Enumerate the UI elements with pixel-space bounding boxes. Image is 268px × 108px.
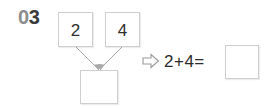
arrow-down-left-icon	[101, 47, 122, 68]
equation-expression: 2+4=	[164, 53, 205, 70]
problem-number-label: 03	[18, 6, 39, 28]
addend-box-1[interactable]: 2	[58, 12, 93, 47]
addend-box-1-value: 2	[59, 13, 92, 39]
worksheet-problem-canvas: 03 2 4 2+4=	[0, 0, 268, 108]
addend-box-2[interactable]: 4	[105, 12, 140, 47]
arrow-down-right-icon	[76, 47, 97, 68]
answer-box[interactable]	[225, 45, 259, 79]
equation-group: 2+4=	[142, 47, 205, 75]
addend-box-2-value: 4	[106, 13, 139, 39]
sum-box[interactable]	[80, 70, 118, 104]
problem-number-value: 3	[29, 6, 40, 28]
problem-number-prefix: 0	[18, 6, 29, 28]
hollow-right-arrow-icon	[142, 53, 160, 69]
